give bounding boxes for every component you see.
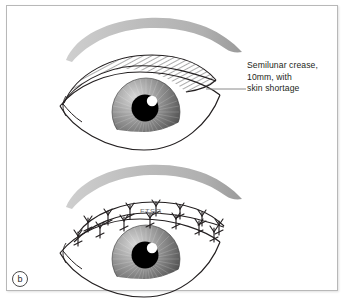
annotation-text: Semilunar crease, 10mm, with skin shorta…	[247, 60, 343, 95]
panel-label-b: b	[12, 271, 28, 287]
annotation-line-2: 10mm, with	[247, 72, 343, 84]
eye-globe-upper	[112, 78, 180, 146]
medial-canthus-fold	[63, 104, 82, 122]
eye-diagram-illustration	[0, 0, 345, 299]
annotation-line-1: Semilunar crease,	[247, 60, 343, 72]
eye-globe-lower	[112, 225, 180, 293]
medial-canthus-fold-lower	[63, 251, 82, 269]
annotation-line-3: skin shortage	[247, 83, 343, 95]
ftsg-label: FTSG	[140, 207, 162, 216]
lower-eye-panel	[60, 165, 242, 297]
upper-eye-panel	[55, 18, 246, 150]
catchlight-upper	[147, 96, 157, 106]
catchlight-lower	[147, 243, 157, 253]
figure-container: Semilunar crease, 10mm, with skin shorta…	[0, 0, 345, 299]
